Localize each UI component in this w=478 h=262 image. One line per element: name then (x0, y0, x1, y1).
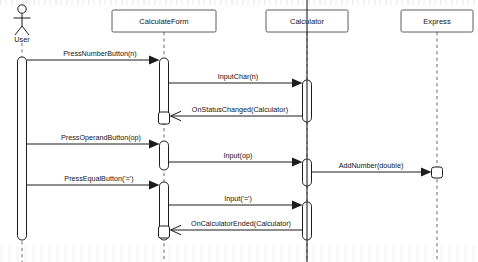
actor-user[interactable]: User (14, 5, 31, 44)
actor-leg-right-icon (22, 26, 29, 35)
arrowhead-filled-6 (421, 168, 432, 177)
message-add-number[interactable]: AddNumber(double) (312, 161, 432, 176)
message-on-calculator-ended[interactable]: OnCalculatorEnded(Calculator) (171, 219, 303, 235)
nested-marker-calculateform-2[interactable] (159, 226, 170, 238)
message-label-2: InputChar(n) (218, 72, 258, 81)
message-label-4: PressOperandButton(op) (61, 133, 141, 142)
participant-label-calculateform: CalculateForm (139, 17, 188, 26)
actor-leg-left-icon (15, 26, 22, 35)
message-press-operand-button[interactable]: PressOperandButton(op) (27, 133, 160, 148)
actor-label-user: User (14, 35, 30, 44)
participant-label-express: Express (423, 17, 451, 26)
arrowhead-filled-1 (149, 56, 160, 65)
message-press-number-button[interactable]: PressNumberButton(n) (27, 49, 160, 64)
message-on-status-changed[interactable]: OnStatusChanged(Calculator) (171, 105, 303, 121)
nested-marker-express-1[interactable] (432, 167, 443, 178)
message-label-3: OnStatusChanged(Calculator) (192, 105, 288, 114)
activation-calculateform-2[interactable] (160, 141, 169, 170)
participant-header-express[interactable]: Express (401, 10, 473, 32)
message-input-char[interactable]: InputChar(n) (169, 72, 303, 87)
participant-header-calculateform[interactable]: CalculateForm (112, 10, 216, 32)
arrowhead-filled-5 (292, 158, 303, 167)
message-label-8: Input('=') (224, 194, 252, 203)
message-label-5: Input(op) (224, 151, 253, 160)
arrowhead-filled-4 (149, 140, 160, 149)
arrowhead-filled-2 (292, 79, 303, 88)
arrowhead-filled-8 (292, 201, 303, 210)
activation-bars (18, 57, 312, 240)
message-label-6: AddNumber(double) (339, 161, 404, 170)
arrowhead-filled-7 (149, 181, 160, 190)
actor-head-icon (18, 5, 26, 13)
nested-marker-calculateform-1[interactable] (159, 112, 170, 124)
message-label-7: PressEqualButton('=') (64, 174, 133, 183)
message-input-op[interactable]: Input(op) (169, 151, 303, 166)
sequence-diagram-canvas: User CalculateForm Calculator Express Pr… (0, 0, 478, 262)
message-press-equal-button[interactable]: PressEqualButton('=') (27, 174, 160, 189)
message-label-9: OnCalculatorEnded(Calculator) (191, 219, 291, 228)
message-input-equal[interactable]: Input('=') (169, 194, 303, 209)
activation-user-1[interactable] (18, 57, 27, 240)
message-label-1: PressNumberButton(n) (63, 49, 137, 58)
